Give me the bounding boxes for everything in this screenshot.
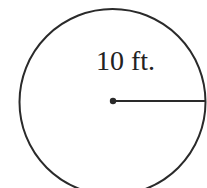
circle-diagram: 10 ft. bbox=[0, 0, 207, 188]
radius-label: 10 ft. bbox=[96, 45, 155, 76]
center-point bbox=[110, 98, 116, 104]
